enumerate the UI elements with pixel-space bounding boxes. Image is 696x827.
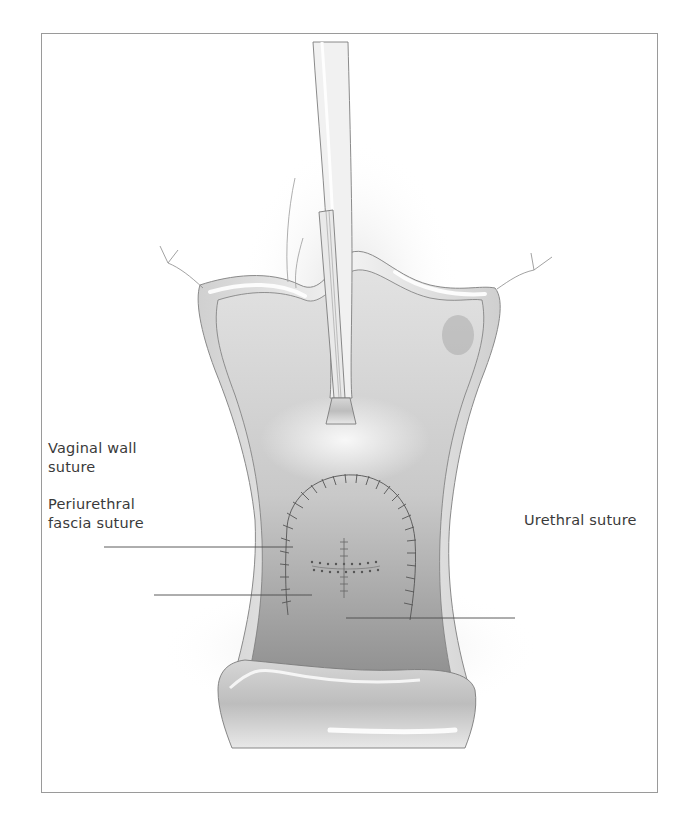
- label-vaginal-wall-suture-line2: suture: [48, 458, 137, 477]
- lower-retractor: [218, 660, 476, 748]
- label-urethral-suture-text: Urethral suture: [524, 512, 637, 528]
- stay-suture-left: [160, 246, 203, 288]
- label-periurethral-line2: fascia suture: [48, 514, 144, 533]
- stay-suture-right: [497, 253, 552, 289]
- label-urethral-suture: Urethral suture: [524, 511, 637, 530]
- label-periurethral-line1: Periurethral: [48, 495, 144, 514]
- label-vaginal-wall-suture: Vaginal wall suture: [48, 439, 137, 477]
- surgical-illustration: [0, 0, 696, 827]
- label-vaginal-wall-suture-line1: Vaginal wall: [48, 439, 137, 458]
- label-periurethral-fascia-suture: Periurethral fascia suture: [48, 495, 144, 533]
